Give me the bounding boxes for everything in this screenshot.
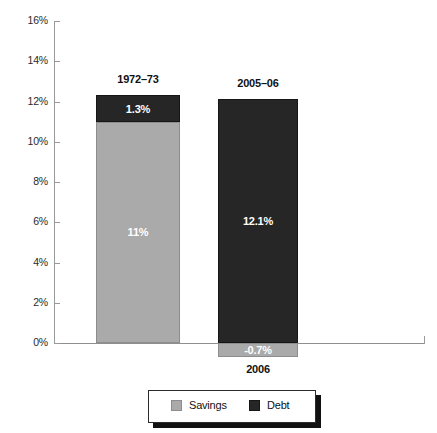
legend-swatch-debt-icon: [249, 400, 260, 411]
chart-legend: Savings Debt: [148, 390, 316, 423]
bar-group-2-bottom-label: 2006: [218, 363, 298, 375]
y-axis-tick-label: 8%: [6, 175, 48, 187]
bar-segment-debt-2005-06[interactable]: 12.1%: [218, 99, 298, 343]
y-axis-tick-label: 6%: [6, 215, 48, 227]
bar-segment-savings-2006[interactable]: -0.7%: [218, 343, 298, 357]
y-axis-tick-label: 4%: [6, 256, 48, 268]
x-axis-end-tick: [424, 336, 425, 344]
legend-item-debt[interactable]: Debt: [249, 399, 289, 411]
y-axis-tick-label: 12%: [6, 95, 48, 107]
legend-label-savings: Savings: [189, 399, 227, 411]
y-axis-tick-label: 16%: [6, 14, 48, 26]
bar-group-2-title: 2005–06: [218, 77, 298, 89]
y-axis-tick-label: 10%: [6, 135, 48, 147]
bar-group-1-title: 1972–73: [96, 73, 180, 85]
y-axis-tick-label: 2%: [6, 296, 48, 308]
y-axis-tick: [54, 343, 60, 344]
y-axis-tick: [54, 263, 60, 264]
y-axis-tick-label: 14%: [6, 54, 48, 66]
bar-segment-debt-1972-73[interactable]: 1.3%: [96, 95, 180, 121]
y-axis-tick: [54, 102, 60, 103]
legend-label-debt: Debt: [267, 399, 289, 411]
y-axis-tick: [54, 61, 60, 62]
y-axis-tick: [54, 182, 60, 183]
y-axis-tick: [54, 222, 60, 223]
y-axis-tick: [54, 21, 60, 22]
legend-item-savings[interactable]: Savings: [171, 399, 227, 411]
bar-segment-savings-1972-73-value: 11%: [97, 226, 179, 238]
bar-segment-debt-2005-06-value: 12.1%: [219, 215, 297, 227]
y-axis-tick: [54, 303, 60, 304]
y-axis-tick: [54, 142, 60, 143]
bar-segment-debt-1972-73-value: 1.3%: [97, 103, 179, 115]
legend-swatch-savings-icon: [171, 400, 182, 411]
stacked-bar-chart: 0%2%4%6%8%10%12%14%16% 1972–73 1.3% 11% …: [0, 0, 437, 433]
bar-segment-savings-2006-value: -0.7%: [219, 344, 297, 356]
bar-segment-savings-1972-73[interactable]: 11%: [96, 122, 180, 343]
y-axis-tick-label: 0%: [6, 336, 48, 348]
